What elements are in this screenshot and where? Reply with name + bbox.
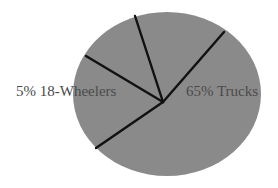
label-18-wheelers: 5% 18-Wheelers [16,83,117,99]
pie-chart: 5% 18-Wheelers 65% Trucks [0,0,278,188]
label-trucks: 65% Trucks [186,83,258,99]
